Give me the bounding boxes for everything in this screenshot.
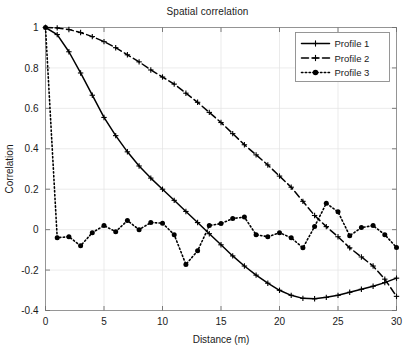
data-marker	[359, 225, 364, 230]
data-marker	[137, 227, 142, 232]
data-marker	[207, 223, 212, 228]
x-tick-label: 30	[391, 316, 403, 327]
data-marker	[382, 232, 387, 237]
x-tick-label: 10	[157, 316, 169, 327]
data-marker	[43, 25, 48, 30]
data-marker	[113, 229, 118, 234]
data-marker	[160, 221, 165, 226]
data-marker	[125, 218, 130, 223]
data-marker	[371, 223, 376, 228]
legend-label: Profile 1	[335, 38, 370, 49]
data-marker	[90, 230, 95, 235]
data-marker	[242, 215, 247, 220]
y-tick-label: 0	[33, 224, 39, 235]
x-axis-title: Distance (m)	[193, 334, 250, 345]
data-marker	[347, 233, 352, 238]
y-tick-label: 0.8	[25, 63, 39, 74]
data-marker	[219, 221, 224, 226]
y-tick-label: 1	[33, 22, 39, 33]
x-tick-label: 25	[332, 316, 344, 327]
y-axis-title: Correlation	[4, 145, 15, 194]
data-marker	[195, 248, 200, 253]
legend: Profile 1Profile 2Profile 3	[296, 33, 390, 82]
data-marker	[324, 201, 329, 206]
data-marker	[312, 224, 317, 229]
x-tick-label: 20	[274, 316, 286, 327]
data-marker	[265, 234, 270, 239]
y-tick-label: 0.4	[25, 143, 39, 154]
data-marker	[172, 232, 177, 237]
data-marker	[66, 234, 71, 239]
y-tick-label: 0.6	[25, 103, 39, 114]
data-marker	[313, 70, 319, 76]
y-tick-label: -0.2	[21, 265, 39, 276]
data-marker	[336, 209, 341, 214]
data-marker	[300, 245, 305, 250]
spatial-correlation-chart: 051015202530-0.4-0.200.20.40.60.81Distan…	[0, 0, 415, 356]
data-marker	[183, 262, 188, 267]
data-marker	[277, 230, 282, 235]
data-marker	[394, 245, 399, 250]
data-marker	[148, 220, 153, 225]
x-tick-label: 0	[43, 316, 49, 327]
y-tick-label: -0.4	[21, 305, 39, 316]
chart-figure: Spatial correlation 051015202530-0.4-0.2…	[0, 0, 415, 356]
y-tick-label: 0.2	[25, 184, 39, 195]
data-marker	[55, 235, 60, 240]
legend-label: Profile 3	[335, 67, 370, 78]
data-marker	[78, 243, 83, 248]
data-marker	[254, 232, 259, 237]
data-marker	[230, 216, 235, 221]
data-marker	[289, 235, 294, 240]
x-tick-label: 15	[215, 316, 227, 327]
legend-label: Profile 2	[335, 53, 370, 64]
data-marker	[102, 223, 107, 228]
x-tick-label: 5	[101, 316, 107, 327]
